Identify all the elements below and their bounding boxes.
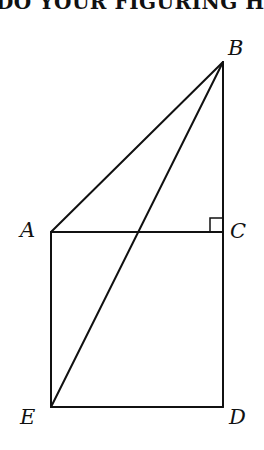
label-c: C	[230, 219, 246, 243]
label-b: B	[228, 36, 243, 60]
geometry-figure	[0, 0, 264, 450]
label-d: D	[229, 405, 246, 429]
segment-be	[51, 62, 223, 407]
label-e: E	[20, 405, 35, 429]
figure-canvas: DO YOUR FIGURING HERE A B C D E	[0, 0, 264, 450]
right-angle-mark-icon	[210, 218, 223, 232]
label-a: A	[20, 218, 35, 242]
segment-ab	[51, 62, 223, 232]
